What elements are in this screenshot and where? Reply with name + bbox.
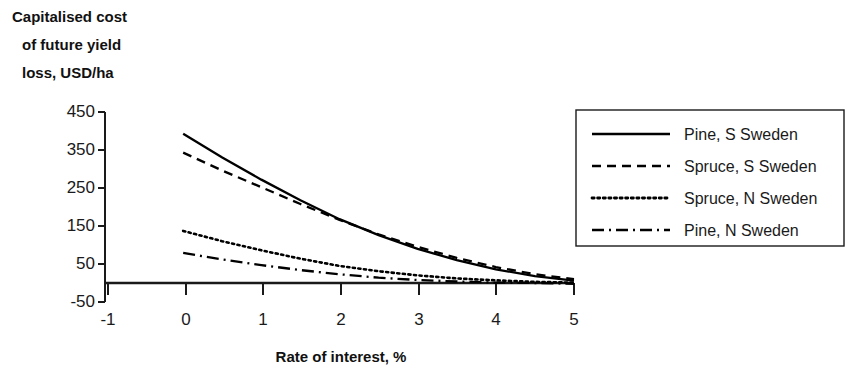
y-tick-label: 450 [67,102,95,121]
y-tick-labels: 450 350 250 150 50 -50 [67,102,95,311]
series-line-pine-n-sweden [183,253,574,284]
x-tick-label: 1 [258,310,267,329]
legend-item-label: Pine, N Sweden [684,222,799,239]
x-tick-labels: -1 0 1 2 3 4 5 [100,310,578,329]
chart-figure: Capitalised cost of future yield loss, U… [0,0,856,382]
y-tick-label: 50 [76,254,95,273]
legend: Pine, S Sweden Spruce, S Sweden Spruce, … [576,110,844,246]
y-tick-label: 150 [67,216,95,235]
y-tick-label: 350 [67,140,95,159]
legend-item-label: Pine, S Sweden [684,126,798,143]
x-tick-label: 3 [414,310,423,329]
legend-item-label: Spruce, N Sweden [684,190,817,207]
x-tick-label: -1 [100,310,115,329]
y-axis-title: Capitalised cost of future yield loss, U… [12,8,127,81]
series-line-pine-s-sweden [183,134,574,281]
y-axis-ticks [98,112,105,302]
y-tick-label: -50 [70,292,95,311]
chart-series-group [183,134,574,284]
series-line-spruce-s-sweden [183,153,574,280]
y-axis-title-line-2: of future yield [22,36,121,53]
x-axis-title: Rate of interest, % [276,348,407,365]
x-tick-label: 4 [491,310,500,329]
x-axis-ticks [108,283,574,295]
x-tick-label: 2 [336,310,345,329]
series-line-spruce-n-sweden [183,231,574,283]
y-axis-title-line-1: Capitalised cost [12,8,127,25]
x-tick-label: 5 [569,310,578,329]
y-tick-label: 250 [67,178,95,197]
y-axis-title-line-3: loss, USD/ha [22,64,114,81]
x-tick-label: 0 [181,310,190,329]
legend-item-label: Spruce, S Sweden [684,158,817,175]
chart-svg: Capitalised cost of future yield loss, U… [0,0,856,382]
